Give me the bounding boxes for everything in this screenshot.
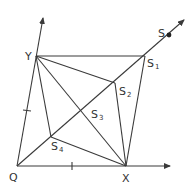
geometry-diagram: Q X Y S S 1 S 2 S 3 S 4	[0, 0, 195, 192]
y-axis-arrow	[17, 18, 43, 166]
label-s3-sub: 3	[99, 114, 103, 122]
label-s2-sub: 2	[127, 91, 131, 99]
label-s: S	[158, 27, 165, 40]
label-s2-base: S	[119, 85, 126, 98]
label-s3-base: S	[91, 108, 98, 121]
diagonal-ray-arrow	[17, 20, 184, 166]
label-s4: S 4	[51, 140, 64, 154]
label-s1-sub: 1	[155, 63, 159, 71]
segment-y-s2	[36, 56, 115, 83]
point-s-dot	[167, 33, 172, 38]
label-s1-base: S	[147, 57, 154, 70]
diagram-canvas: Q X Y S S 1 S 2 S 3 S 4	[0, 0, 195, 192]
label-s1: S 1	[147, 57, 159, 71]
label-x: X	[122, 172, 130, 185]
label-y: Y	[24, 50, 32, 63]
label-s3: S 3	[91, 108, 103, 122]
segment-y-x	[36, 56, 126, 166]
segment-s1-x	[126, 56, 145, 166]
tick-mark-qy	[23, 110, 31, 111]
segment-y-s4	[36, 56, 51, 137]
label-q: Q	[9, 171, 18, 184]
label-s4-sub: 4	[59, 146, 64, 154]
label-s2: S 2	[119, 85, 131, 99]
label-s4-base: S	[51, 140, 58, 153]
